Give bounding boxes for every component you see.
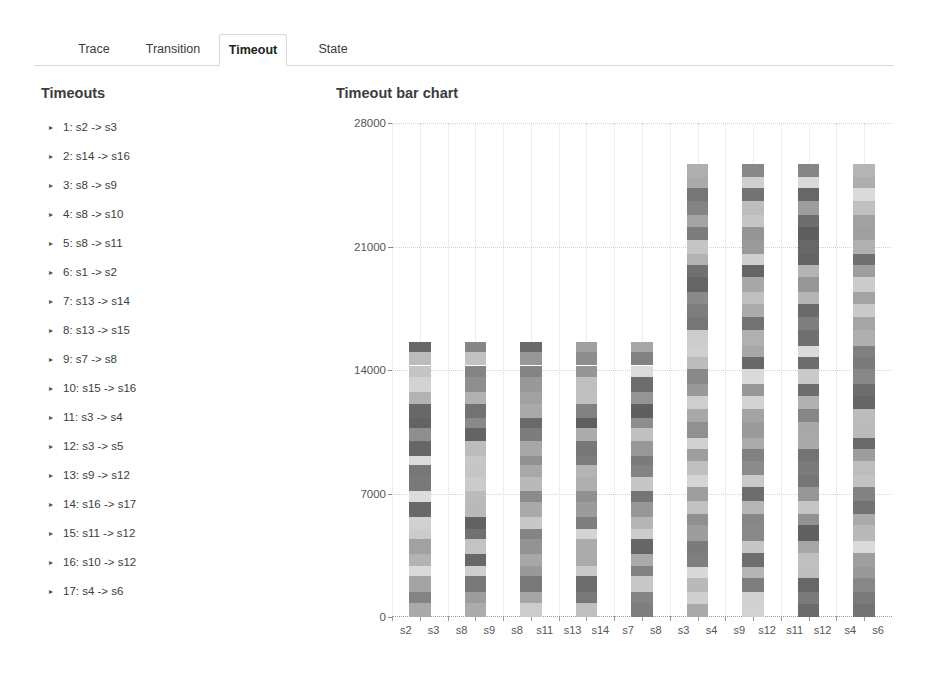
chevron-right-icon[interactable]: ▸	[49, 519, 53, 548]
list-item[interactable]: ▸4: s8 -> s10	[41, 200, 291, 229]
bar-segment	[687, 164, 709, 178]
bar-segment	[687, 384, 709, 396]
list-item[interactable]: ▸10: s15 -> s16	[41, 374, 291, 403]
list-item[interactable]: ▸5: s8 -> s11	[41, 229, 291, 258]
bar-segment	[853, 188, 875, 201]
chevron-right-icon[interactable]: ▸	[49, 113, 53, 142]
bar[interactable]	[465, 342, 487, 617]
bar-segment	[798, 292, 820, 304]
bar-segment	[576, 456, 598, 465]
list-item[interactable]: ▸8: s13 -> s15	[41, 316, 291, 345]
list-item[interactable]: ▸7: s13 -> s14	[41, 287, 291, 316]
bar-segment	[520, 517, 542, 529]
bar[interactable]	[409, 342, 431, 617]
chevron-right-icon[interactable]: ▸	[49, 345, 53, 374]
bar[interactable]	[520, 342, 542, 617]
bar-segment	[742, 227, 764, 240]
bar-segment	[742, 438, 764, 449]
bar-segment	[520, 456, 542, 465]
bar-segment	[576, 517, 598, 529]
bar-segment	[798, 277, 820, 292]
bar-segment	[687, 514, 709, 525]
chevron-right-icon[interactable]: ▸	[49, 171, 53, 200]
bar-segment	[576, 418, 598, 428]
list-item[interactable]: ▸6: s1 -> s2	[41, 258, 291, 287]
bar[interactable]	[631, 342, 653, 617]
tab-trace[interactable]: Trace	[62, 34, 126, 66]
bar-segment	[742, 475, 764, 487]
bar-segment	[853, 475, 875, 487]
bar-segment	[742, 396, 764, 410]
list-item[interactable]: ▸12: s3 -> s5	[41, 432, 291, 461]
chevron-right-icon[interactable]: ▸	[49, 432, 53, 461]
bar-segment	[853, 369, 875, 384]
list-item[interactable]: ▸11: s3 -> s4	[41, 403, 291, 432]
list-item[interactable]: ▸2: s14 -> s16	[41, 142, 291, 171]
x-tick-label: s3	[678, 624, 690, 636]
list-item-label: 14: s16 -> s17	[63, 498, 136, 510]
bar-segment	[798, 592, 820, 604]
bar-segment	[742, 501, 764, 514]
bar-segment	[853, 541, 875, 554]
bar-segment	[742, 604, 764, 617]
list-item[interactable]: ▸17: s4 -> s6	[41, 577, 291, 606]
chevron-right-icon[interactable]: ▸	[49, 374, 53, 403]
list-item[interactable]: ▸3: s8 -> s9	[41, 171, 291, 200]
chevron-right-icon[interactable]: ▸	[49, 258, 53, 287]
bar-segment	[409, 603, 431, 617]
chevron-right-icon[interactable]: ▸	[49, 461, 53, 490]
bar[interactable]	[576, 342, 598, 617]
bar-segment	[798, 409, 820, 422]
bar-segment	[631, 566, 653, 576]
x-tick-mark	[781, 616, 782, 621]
chevron-right-icon[interactable]: ▸	[49, 490, 53, 519]
chevron-right-icon[interactable]: ▸	[49, 577, 53, 606]
bar[interactable]	[798, 164, 820, 617]
list-item[interactable]: ▸16: s10 -> s12	[41, 548, 291, 577]
bar-segment	[520, 603, 542, 617]
bar-segment	[520, 477, 542, 491]
bar-segment	[742, 592, 764, 604]
bar-segment	[687, 330, 709, 345]
bar-segment	[853, 357, 875, 370]
chevron-right-icon[interactable]: ▸	[49, 142, 53, 171]
list-item[interactable]: ▸15: s11 -> s12	[41, 519, 291, 548]
chevron-right-icon[interactable]: ▸	[49, 403, 53, 432]
bar-segment	[631, 539, 653, 553]
bar-segment	[576, 477, 598, 491]
bar-segment	[465, 441, 487, 456]
bar-segment	[520, 366, 542, 377]
chevron-right-icon[interactable]: ▸	[49, 287, 53, 316]
bar-segment	[798, 346, 820, 357]
bar-segment	[742, 240, 764, 254]
chevron-right-icon[interactable]: ▸	[49, 229, 53, 258]
bar-segment	[742, 292, 764, 304]
bar-segment	[798, 449, 820, 462]
tab-transition[interactable]: Transition	[132, 34, 214, 66]
bar-segment	[742, 369, 764, 384]
chevron-right-icon[interactable]: ▸	[49, 548, 53, 577]
bar-segment	[409, 366, 431, 377]
bar[interactable]	[853, 164, 875, 617]
bar[interactable]	[742, 164, 764, 617]
bar-segment	[520, 342, 542, 352]
chevron-right-icon[interactable]: ▸	[49, 316, 53, 345]
bar-segment	[687, 201, 709, 216]
list-item[interactable]: ▸1: s2 -> s3	[41, 113, 291, 142]
bar-segment	[742, 254, 764, 265]
list-item[interactable]: ▸14: s16 -> s17	[41, 490, 291, 519]
tab-timeout[interactable]: Timeout	[219, 34, 287, 66]
bar-segment	[687, 553, 709, 567]
list-item[interactable]: ▸9: s7 -> s8	[41, 345, 291, 374]
bar-segment	[409, 456, 431, 465]
tab-state[interactable]: State	[302, 34, 364, 66]
chevron-right-icon[interactable]: ▸	[49, 200, 53, 229]
bar-segment	[631, 456, 653, 465]
bar-segment	[576, 592, 598, 604]
timeout-bar-chart: 07000140002100028000s2s3s8s9s8s11s13s14s…	[336, 112, 906, 647]
bar[interactable]	[687, 164, 709, 617]
x-tick-label: s11	[786, 624, 803, 636]
bar-segment	[798, 317, 820, 330]
list-item[interactable]: ▸13: s9 -> s12	[41, 461, 291, 490]
bar-segment	[631, 491, 653, 502]
